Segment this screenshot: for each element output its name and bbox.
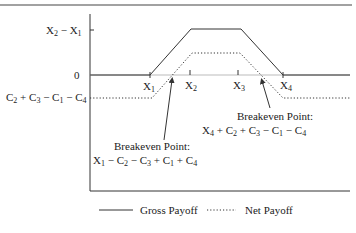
breakeven-arrow-right <box>262 81 270 108</box>
breakeven-right-title: Breakeven Point: <box>237 110 313 122</box>
legend-net-label: Net Payoff <box>245 204 293 216</box>
y-label-top: X2 − X1 <box>46 24 82 38</box>
legend-gross-label: Gross Payoff <box>140 204 198 216</box>
gross-payoff-line <box>90 29 350 75</box>
y-label-zero: 0 <box>74 69 80 81</box>
breakeven-left-title: Breakeven Point: <box>114 140 190 152</box>
breakeven-right-formula: X4 + C2 + C3 − C1 − C4 <box>202 124 306 138</box>
breakeven-arrow-left <box>164 80 172 140</box>
payoff-chart: X2 − X1 0 C2 + C3 − C1 − C4 X1 X2 X3 X4 … <box>0 0 356 233</box>
x1-label: X1 <box>143 80 155 94</box>
x2-label: X2 <box>185 79 197 93</box>
x3-label: X3 <box>233 79 245 93</box>
breakeven-left-formula: X1 − C2 − C3 + C1 + C4 <box>93 154 197 168</box>
y-label-bottom: C2 + C3 − C1 − C4 <box>6 91 86 105</box>
x4-label: X4 <box>280 79 292 93</box>
